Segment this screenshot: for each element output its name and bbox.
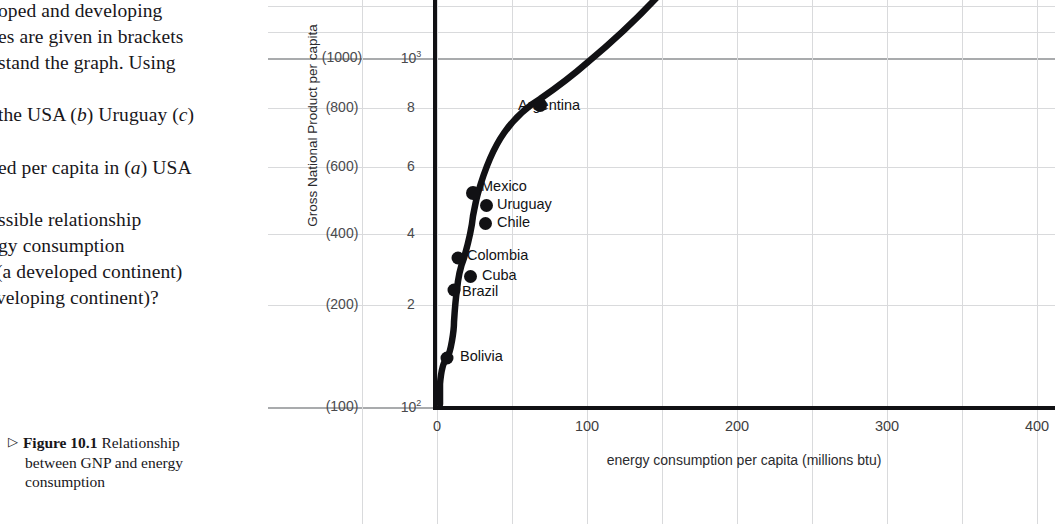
- body-text-run: the USA (b) Uruguay (c): [0, 104, 194, 125]
- point-label-cuba: Cuba: [482, 267, 517, 283]
- point-label-mexico: Mexico: [481, 178, 527, 194]
- figure-caption: ▷ Figure 10.1 Relationship between GNP a…: [8, 432, 260, 492]
- exercise-text-column: oped and developing es are given in brac…: [0, 0, 268, 524]
- series-curve: [268, 0, 1055, 524]
- point-label-uruguay: Uruguay: [497, 196, 552, 212]
- marker-chile: [479, 217, 492, 230]
- marker-bolivia: [441, 352, 454, 365]
- figure-number: Figure 10.1: [23, 434, 98, 451]
- point-label-chile: Chile: [497, 214, 530, 230]
- point-label-argentina: Argentina: [518, 97, 580, 113]
- caption-triangle-icon: ▷: [8, 432, 19, 452]
- body-text-line: the USA (b) Uruguay (c): [0, 102, 194, 128]
- figure-chart: Gross National Product per capita (1000)…: [268, 0, 1055, 524]
- caption-line-2: between GNP and energy: [8, 453, 260, 473]
- caption-line-1: Relationship: [101, 434, 179, 451]
- marker-brazil: [448, 284, 461, 297]
- point-label-bolivia: Bolivia: [460, 348, 503, 364]
- marker-mexico: [466, 186, 480, 200]
- body-text-line: veloping continent)?: [0, 285, 159, 311]
- body-text-line: (a developed continent): [0, 259, 182, 285]
- body-text-line: ssible relationship: [0, 207, 141, 233]
- body-text-line: oped and developing: [0, 0, 162, 24]
- body-text-line: ed per capita in (a) USA: [0, 155, 192, 181]
- point-label-colombia: Colombia: [467, 247, 528, 263]
- body-text-line: stand the graph. Using: [0, 50, 176, 76]
- point-label-brazil: Brazil: [462, 283, 498, 299]
- marker-uruguay: [480, 199, 493, 212]
- body-text-line: es are given in brackets: [0, 24, 183, 50]
- body-text-run: ed per capita in (a) USA: [0, 157, 192, 178]
- body-text-line: gy consumption: [0, 233, 125, 259]
- caption-line-3: consumption: [8, 472, 260, 492]
- marker-cuba: [464, 270, 477, 283]
- marker-colombia: [452, 252, 465, 265]
